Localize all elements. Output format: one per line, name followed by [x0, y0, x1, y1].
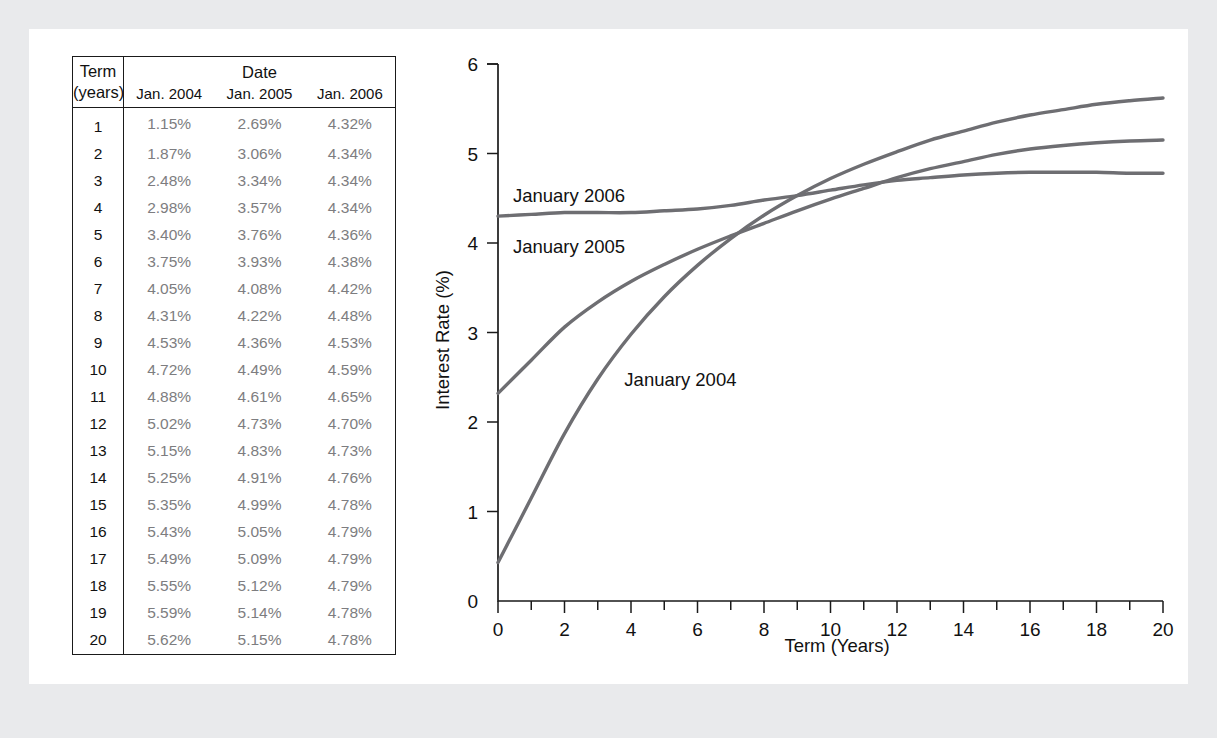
rate-cells-group: 4.31%4.22%4.48% — [124, 302, 396, 329]
rate-cell-jan2004: 4.31% — [124, 307, 214, 325]
y-tick-label: 2 — [467, 412, 478, 433]
term-cell: 5 — [73, 221, 124, 248]
rate-cell-jan2004: 1.15% — [124, 115, 214, 133]
rate-cell-jan2006: 4.48% — [305, 307, 395, 325]
x-tick-label: 16 — [1019, 619, 1040, 640]
chart-svg: 012345602468101214161820 January 2004Jan… — [425, 40, 1185, 685]
x-tick-label: 4 — [626, 619, 637, 640]
table-row: 63.75%3.93%4.38% — [73, 248, 396, 275]
rate-cell-jan2005: 4.22% — [214, 307, 304, 325]
rate-cell-jan2004: 4.53% — [124, 334, 214, 352]
rate-cell-jan2004: 3.40% — [124, 226, 214, 244]
rate-cell-jan2005: 2.69% — [214, 115, 304, 133]
term-cell: 6 — [73, 248, 124, 275]
term-cell: 9 — [73, 329, 124, 356]
rate-cell-jan2004: 4.05% — [124, 280, 214, 298]
rate-cells-group: 3.40%3.76%4.36% — [124, 221, 396, 248]
rate-cells-group: 4.88%4.61%4.65% — [124, 384, 396, 411]
curve-january-2004 — [498, 98, 1163, 563]
interest-rate-table: Term (years) Date Jan. 2004 Jan. 2005 Ja… — [72, 56, 396, 655]
x-tick-label: 20 — [1152, 619, 1173, 640]
table-row: 195.59%5.14%4.78% — [73, 600, 396, 627]
x-tick-label: 14 — [953, 619, 975, 640]
rate-cell-jan2005: 3.76% — [214, 226, 304, 244]
table-row: 165.43%5.05%4.79% — [73, 519, 396, 546]
rate-cell-jan2006: 4.59% — [305, 361, 395, 379]
table-row: 145.25%4.91%4.76% — [73, 465, 396, 492]
table-row: 135.15%4.83%4.73% — [73, 438, 396, 465]
rate-cell-jan2005: 4.61% — [214, 388, 304, 406]
rate-cells-group: 5.59%5.14%4.78% — [124, 600, 396, 627]
rate-cell-jan2005: 4.83% — [214, 442, 304, 460]
x-tick-label: 0 — [493, 619, 504, 640]
table-row: 185.55%5.12%4.79% — [73, 573, 396, 600]
rate-cell-jan2004: 5.43% — [124, 523, 214, 541]
term-cell: 10 — [73, 357, 124, 384]
x-tick-label: 18 — [1086, 619, 1107, 640]
rate-cell-jan2006: 4.79% — [305, 523, 395, 541]
rate-cell-jan2004: 5.02% — [124, 415, 214, 433]
term-cell: 14 — [73, 465, 124, 492]
rate-cell-jan2005: 3.57% — [214, 199, 304, 217]
term-cell: 8 — [73, 302, 124, 329]
rate-cells-group: 1.15%2.69%4.32% — [124, 108, 396, 141]
term-cell: 12 — [73, 411, 124, 438]
table-row: 84.31%4.22%4.48% — [73, 302, 396, 329]
term-cell: 15 — [73, 492, 124, 519]
column-header-jan-2006: Jan. 2006 — [305, 85, 395, 102]
rate-cells-group: 1.87%3.06%4.34% — [124, 140, 396, 167]
rate-cell-jan2005: 4.08% — [214, 280, 304, 298]
term-cell: 7 — [73, 275, 124, 302]
term-cell: 20 — [73, 627, 124, 655]
table-row: 175.49%5.09%4.79% — [73, 546, 396, 573]
rate-cells-group: 5.35%4.99%4.78% — [124, 492, 396, 519]
rate-cell-jan2005: 4.91% — [214, 469, 304, 487]
rate-cell-jan2005: 4.99% — [214, 496, 304, 514]
table-row: 114.88%4.61%4.65% — [73, 384, 396, 411]
rate-table: Term (years) Date Jan. 2004 Jan. 2005 Ja… — [72, 56, 396, 655]
column-header-jan-2004: Jan. 2004 — [124, 85, 214, 102]
rate-cell-jan2006: 4.78% — [305, 604, 395, 622]
series-label-january-2005: January 2005 — [513, 236, 625, 257]
table-row: 155.35%4.99%4.78% — [73, 492, 396, 519]
table-header-row: Term (years) Date Jan. 2004 Jan. 2005 Ja… — [73, 57, 396, 108]
rate-cell-jan2004: 1.87% — [124, 145, 214, 163]
rate-cell-jan2006: 4.79% — [305, 550, 395, 568]
rate-cell-jan2004: 5.62% — [124, 631, 214, 649]
table-row: 104.72%4.49%4.59% — [73, 357, 396, 384]
rate-cell-jan2004: 5.59% — [124, 604, 214, 622]
table-row: 125.02%4.73%4.70% — [73, 411, 396, 438]
term-cell: 2 — [73, 140, 124, 167]
chart-curves — [498, 98, 1163, 563]
rate-cell-jan2005: 3.34% — [214, 172, 304, 190]
y-tick-label: 0 — [467, 591, 478, 612]
x-tick-label: 6 — [692, 619, 703, 640]
rate-cells-group: 5.55%5.12%4.79% — [124, 573, 396, 600]
rate-cell-jan2006: 4.32% — [305, 115, 395, 133]
rate-cell-jan2004: 4.88% — [124, 388, 214, 406]
rate-cells-group: 4.53%4.36%4.53% — [124, 329, 396, 356]
rate-cell-jan2004: 2.48% — [124, 172, 214, 190]
y-tick-label: 4 — [467, 233, 478, 254]
table-body: 11.15%2.69%4.32%21.87%3.06%4.34%32.48%3.… — [73, 108, 396, 655]
figure-root: Term (years) Date Jan. 2004 Jan. 2005 Ja… — [0, 0, 1217, 738]
table-row: 42.98%3.57%4.34% — [73, 194, 396, 221]
term-cell: 17 — [73, 546, 124, 573]
rate-cell-jan2006: 4.36% — [305, 226, 395, 244]
rate-cells-group: 5.25%4.91%4.76% — [124, 465, 396, 492]
column-header-jan-2005: Jan. 2005 — [214, 85, 304, 102]
rate-cell-jan2004: 2.98% — [124, 199, 214, 217]
rate-cell-jan2004: 5.55% — [124, 577, 214, 595]
table-row: 32.48%3.34%4.34% — [73, 167, 396, 194]
table-row: 205.62%5.15%4.78% — [73, 627, 396, 655]
table-header: Term (years) Date Jan. 2004 Jan. 2005 Ja… — [73, 57, 396, 108]
yield-curve-chart: 012345602468101214161820 January 2004Jan… — [425, 40, 1185, 685]
term-header-line1: Term — [73, 61, 123, 82]
rate-cell-jan2004: 5.35% — [124, 496, 214, 514]
rate-cells-group: 2.98%3.57%4.34% — [124, 194, 396, 221]
rate-cells-group: 4.05%4.08%4.42% — [124, 275, 396, 302]
date-header-cell: Date Jan. 2004 Jan. 2005 Jan. 2006 — [124, 57, 396, 108]
x-tick-label: 2 — [559, 619, 570, 640]
term-cell: 4 — [73, 194, 124, 221]
rate-cell-jan2006: 4.34% — [305, 199, 395, 217]
